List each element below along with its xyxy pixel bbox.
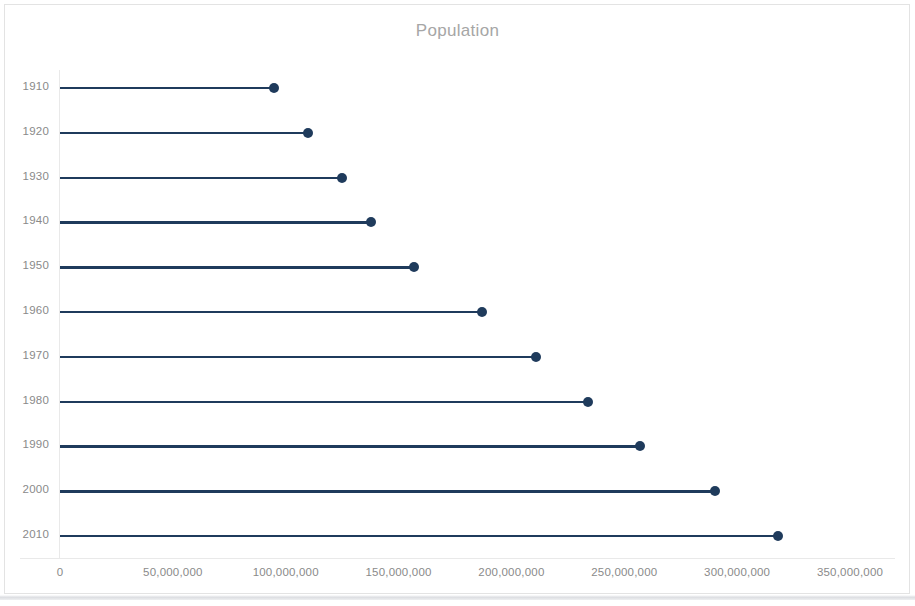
lollipop-marker[interactable] [477,307,487,317]
lollipop-stem [60,356,536,358]
y-axis-tick-label: 1940 [0,214,49,226]
lollipop-stem [60,266,414,268]
lollipop-stem [60,401,588,403]
lollipop-marker[interactable] [583,397,593,407]
lollipop-marker[interactable] [303,128,313,138]
y-axis-tick-label: 2010 [0,528,49,540]
y-axis-tick-label: 2000 [0,483,49,495]
lollipop-stem [60,535,778,537]
chart-container[interactable]: Population 19101920193019401950196019701… [0,0,915,606]
x-axis-tick-label: 200,000,000 [478,566,544,578]
lollipop-stem [60,311,482,313]
lollipop-stem [60,87,274,89]
lollipop-stem [60,177,342,179]
x-axis-tick-label: 250,000,000 [591,566,657,578]
lollipop-marker[interactable] [269,83,279,93]
x-axis-tick-label: 100,000,000 [253,566,319,578]
x-axis-tick-label: 150,000,000 [365,566,431,578]
y-axis-tick-label: 1980 [0,394,49,406]
lollipop-marker[interactable] [409,262,419,272]
y-axis-tick-label: 1920 [0,125,49,137]
lollipop-marker[interactable] [337,173,347,183]
lollipop-marker[interactable] [531,352,541,362]
lollipop-stem [60,221,371,223]
lollipop-stem [60,490,715,492]
y-axis-tick-label: 1930 [0,170,49,182]
lollipop-marker[interactable] [773,531,783,541]
object-bottom-filler [0,600,915,606]
x-axis-line [20,558,895,559]
lollipop-marker[interactable] [366,217,376,227]
lollipop-marker[interactable] [710,486,720,496]
plot-area [60,70,850,558]
x-axis-tick-label: 50,000,000 [143,566,203,578]
y-axis-tick-label: 1910 [0,80,49,92]
lollipop-stem [60,445,640,447]
x-axis-tick-label: 350,000,000 [817,566,883,578]
y-axis-tick-label: 1950 [0,259,49,271]
y-axis-tick-label: 1970 [0,349,49,361]
y-axis-tick-label: 1960 [0,304,49,316]
x-axis-tick-label: 0 [57,566,64,578]
lollipop-marker[interactable] [635,441,645,451]
chart-title: Population [0,21,915,41]
y-axis-tick-label: 1990 [0,438,49,450]
lollipop-stem [60,132,308,134]
x-axis-tick-label: 300,000,000 [704,566,770,578]
